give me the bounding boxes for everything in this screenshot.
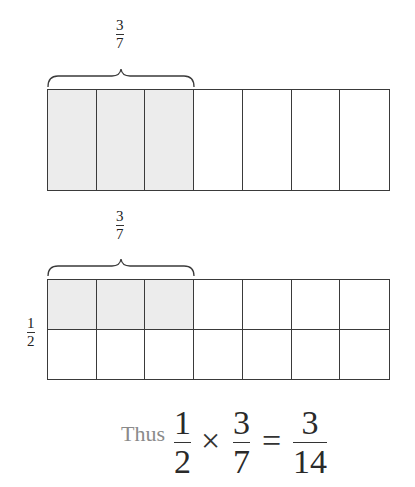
numerator: 3 — [302, 406, 319, 440]
equation-result-fraction: 3 14 — [293, 406, 327, 479]
equation-fraction-2: 3 7 — [233, 406, 250, 479]
side-denominator: 2 — [27, 333, 35, 349]
numerator: 1 — [174, 406, 191, 440]
side-numerator: 1 — [27, 316, 35, 332]
grid-cell — [194, 280, 243, 330]
grid-cell-shaded — [97, 280, 146, 330]
grid-cell — [243, 280, 292, 330]
grid-cell-shaded — [145, 280, 194, 330]
denominator: 14 — [293, 445, 327, 479]
times-operator: × — [201, 424, 220, 458]
grid-cell — [292, 330, 341, 380]
denominator: 7 — [233, 445, 250, 479]
grid-cell — [194, 330, 243, 380]
equals-operator: = — [262, 424, 281, 458]
grid-cell — [145, 330, 194, 380]
bottom-area-grid — [47, 279, 390, 380]
numerator: 3 — [233, 406, 250, 440]
grid-cell — [48, 330, 97, 380]
equation-fraction-1: 1 2 — [174, 406, 191, 479]
bottom-brace — [0, 0, 415, 290]
side-fraction: 1 2 — [27, 316, 35, 349]
grid-cell — [243, 330, 292, 380]
grid-cell — [97, 330, 146, 380]
equation-prefix: Thus — [121, 421, 165, 447]
grid-cell — [340, 330, 389, 380]
grid-cell — [340, 280, 389, 330]
grid-cell-shaded — [48, 280, 97, 330]
grid-cell — [292, 280, 341, 330]
denominator: 2 — [174, 445, 191, 479]
